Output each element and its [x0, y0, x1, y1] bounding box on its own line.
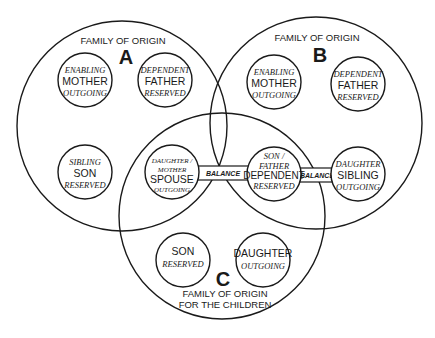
family-a-sibling-son-node: SIBLING SON RESERVED — [58, 145, 112, 199]
svg-text:SPOUSE: SPOUSE — [150, 173, 194, 185]
dependent-node: SON / FATHER DEPENDENT RESERVED — [243, 147, 305, 201]
family-b-father-node: DEPENDENT FATHER RESERVED — [331, 57, 385, 111]
svg-text:ENABLING: ENABLING — [64, 65, 106, 75]
svg-text:SIBLING: SIBLING — [69, 157, 101, 167]
svg-text:RESERVED: RESERVED — [336, 92, 379, 102]
family-c-heading-line1: FAMILY OF ORIGIN — [182, 288, 267, 299]
svg-text:OUTGOING: OUTGOING — [154, 186, 190, 194]
family-b-heading: FAMILY OF ORIGIN — [274, 32, 359, 43]
family-a-father-node: DEPENDENT FATHER RESERVED — [138, 53, 192, 107]
svg-text:SON /: SON / — [264, 151, 286, 161]
family-c-letter: C — [216, 268, 230, 290]
svg-text:RESERVED: RESERVED — [143, 88, 186, 98]
svg-text:DEPENDENT: DEPENDENT — [139, 65, 190, 75]
svg-text:RESERVED: RESERVED — [161, 259, 204, 269]
svg-text:MOTHER: MOTHER — [251, 77, 297, 89]
svg-text:SON: SON — [172, 245, 195, 257]
svg-text:OUTGOING: OUTGOING — [252, 90, 296, 100]
svg-text:RESERVED: RESERVED — [252, 181, 295, 191]
svg-text:OUTGOING: OUTGOING — [241, 261, 285, 271]
family-c-daughter-node: DAUGHTER OUTGOING — [234, 233, 293, 287]
spouse-node: DAUGHTER / MOTHER SPOUSE OUTGOING — [145, 145, 199, 199]
family-b-mother-node: ENABLING MOTHER OUTGOING — [247, 55, 301, 109]
family-a-mother-node: ENABLING MOTHER OUTGOING — [58, 53, 112, 107]
svg-text:ENABLING: ENABLING — [253, 67, 295, 77]
family-systems-diagram: BALANCE BALANCE FAMILY OF ORIGIN A ENABL… — [0, 0, 435, 338]
svg-text:DAUGHTER: DAUGHTER — [335, 159, 382, 169]
svg-text:OUTGOING: OUTGOING — [63, 88, 107, 98]
svg-text:DEPENDENT: DEPENDENT — [332, 69, 383, 79]
svg-text:DEPENDENT: DEPENDENT — [243, 170, 305, 181]
balance-label: BALANCE — [206, 170, 241, 177]
balance-label: BALANCE — [300, 172, 335, 179]
svg-text:SON: SON — [74, 167, 97, 179]
svg-text:FATHER: FATHER — [338, 79, 379, 91]
family-b-letter: B — [313, 44, 327, 66]
svg-text:MOTHER: MOTHER — [62, 75, 108, 87]
family-c-son-node: SON RESERVED — [156, 233, 210, 287]
svg-text:DAUGHTER: DAUGHTER — [234, 247, 293, 259]
svg-text:DAUGHTER /: DAUGHTER / — [151, 157, 194, 165]
family-a-heading: FAMILY OF ORIGIN — [80, 35, 165, 46]
svg-text:FATHER: FATHER — [145, 75, 186, 87]
family-c-heading-line2: FOR THE CHILDREN — [179, 299, 272, 310]
svg-text:OUTGOING: OUTGOING — [336, 182, 380, 192]
svg-text:SIBLING: SIBLING — [337, 169, 378, 181]
family-b-sibling-daughter-node: DAUGHTER SIBLING OUTGOING — [331, 147, 385, 201]
family-a-letter: A — [119, 46, 133, 68]
svg-text:RESERVED: RESERVED — [63, 180, 106, 190]
